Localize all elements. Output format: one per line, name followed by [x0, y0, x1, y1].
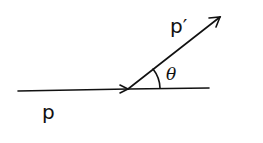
label-p: p	[42, 100, 55, 124]
diagram-lines	[0, 0, 263, 143]
scattering-diagram: p p′ θ	[0, 0, 263, 143]
reference-axis	[128, 88, 209, 89]
angle-arc	[153, 69, 160, 88]
label-theta: θ	[166, 64, 176, 84]
incoming-vector-p	[18, 89, 128, 91]
label-p-prime: p′	[170, 14, 187, 38]
